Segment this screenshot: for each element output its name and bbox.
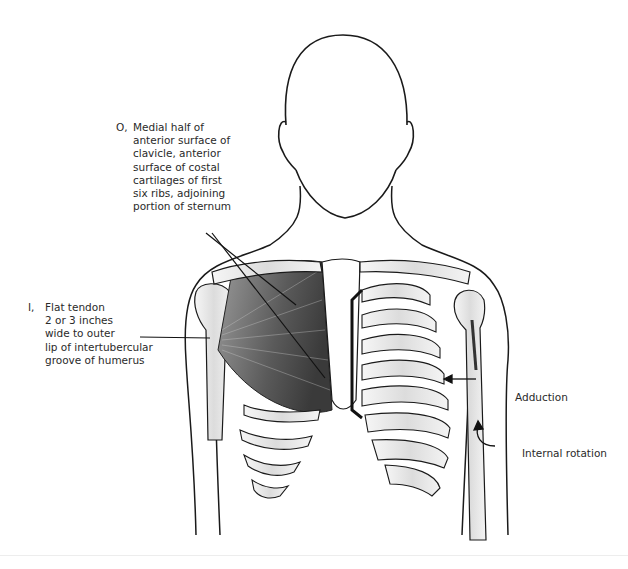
lower-ribs-left xyxy=(240,405,320,498)
right-humerus xyxy=(454,290,486,540)
origin-description: Medial half of anterior surface of clavi… xyxy=(133,121,276,213)
insertion-label: I, Flat tendon 2 or 3 inches wide to out… xyxy=(28,301,178,367)
anatomy-illustration xyxy=(0,0,628,569)
action-adduction-label: Adduction xyxy=(515,391,568,404)
action-internal-rotation-label: Internal rotation xyxy=(522,447,607,460)
origin-label: O, Medial half of anterior surface of cl… xyxy=(116,121,276,213)
insertion-prefix: I, xyxy=(28,301,34,314)
divider xyxy=(0,555,628,556)
origin-prefix: O, xyxy=(116,121,128,134)
head-outline xyxy=(279,35,414,218)
insertion-description: Flat tendon 2 or 3 inches wide to outer … xyxy=(45,301,178,367)
rib-cage xyxy=(352,284,450,496)
pectoralis-major xyxy=(218,260,332,412)
